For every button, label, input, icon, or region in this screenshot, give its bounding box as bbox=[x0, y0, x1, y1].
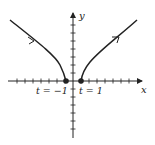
y-axis bbox=[71, 13, 76, 138]
left-curve bbox=[10, 20, 66, 81]
y-axis-label: y bbox=[78, 10, 85, 21]
point-label-t-1: t = 1 bbox=[79, 85, 103, 96]
right-curve bbox=[81, 20, 137, 81]
x-axis bbox=[8, 79, 142, 84]
point-label-t-minus-1: t = −1 bbox=[36, 85, 68, 96]
parametric-curve-diagram: y x t = −1 t = 1 bbox=[0, 0, 155, 145]
point-t-minus-1 bbox=[63, 78, 69, 84]
x-axis-label: x bbox=[141, 84, 147, 95]
point-t-1 bbox=[78, 78, 84, 84]
